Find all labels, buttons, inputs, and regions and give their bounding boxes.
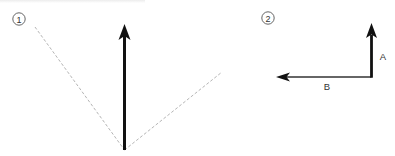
figure-1: 1 (13, 13, 222, 150)
vector-a-label: A (380, 51, 387, 62)
dashed-line-left (35, 27, 125, 150)
dashed-line-right (125, 72, 223, 150)
figure-1-marker: 1 (13, 13, 25, 25)
vector-diagram: 1 2 B A (0, 0, 395, 156)
figure-1-number: 1 (16, 15, 21, 25)
figure-2-marker: 2 (262, 12, 274, 24)
figure-2: 2 B A (262, 12, 387, 92)
figure-2-number: 2 (265, 14, 270, 24)
vector-b-label: B (324, 81, 330, 92)
